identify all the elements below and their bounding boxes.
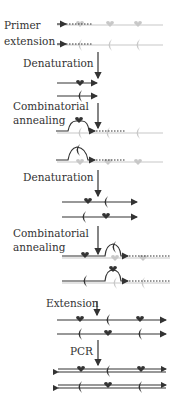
annealed-crescent-on-heart <box>56 144 163 165</box>
pcr-product-2 <box>58 381 166 393</box>
annealed-crescent-heart <box>62 266 170 289</box>
label-combinatorial-1: Combinatorial <box>13 100 90 112</box>
label-pcr: PCR <box>70 345 94 357</box>
label-denaturation-2: Denaturation <box>23 171 94 183</box>
label-annealing-2: annealing <box>13 241 66 253</box>
label-denaturation-1: Denaturation <box>23 57 94 69</box>
full-length-heart-crescent-heart <box>57 314 166 326</box>
extended-fragment-heart <box>57 80 97 86</box>
label-primer: Primer <box>4 19 42 31</box>
pcr-shuffling-diagram: Primer extension Denaturation Combinator… <box>0 0 177 409</box>
fragment-crescent-heart <box>62 211 137 223</box>
label-extension-step: Extension <box>46 297 99 309</box>
label-combinatorial-2: Combinatorial <box>13 227 90 239</box>
label-extension: extension <box>4 35 55 47</box>
pcr-product-1 <box>58 365 166 377</box>
label-annealing-1: annealing <box>13 114 66 126</box>
template-strand-hearts <box>57 21 163 27</box>
annealed-heart-on-crescent <box>56 117 163 139</box>
step-arrow <box>97 52 98 365</box>
full-length-crescent-heart-crescent <box>57 328 166 340</box>
annealed-heart-crescent <box>62 241 170 261</box>
template-strand-crescents <box>57 39 163 51</box>
fragment-heart-crescent <box>62 196 137 208</box>
